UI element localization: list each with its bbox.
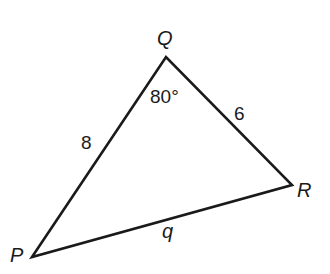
side-label-pr: q [162,220,173,242]
angle-label-q: 80° [150,86,179,107]
side-label-qr: 6 [234,103,245,124]
vertex-label-q: Q [157,27,173,49]
vertex-label-p: P [10,244,24,266]
vertex-label-r: R [297,179,311,201]
side-label-pq: 8 [81,132,92,153]
triangle-diagram: Q R P 80° 6 8 q [0,0,330,274]
